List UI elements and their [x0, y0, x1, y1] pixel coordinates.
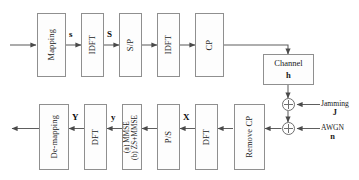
- block-channel-label: Channel: [274, 58, 302, 69]
- block-channel[interactable]: Channel h: [263, 54, 314, 85]
- block-serial-to-parallel-label: S/P: [126, 39, 135, 51]
- block-idft-2[interactable]: IDFT: [157, 13, 180, 77]
- label-jamming-symbol: J: [321, 108, 349, 117]
- block-dft-2[interactable]: DFT: [84, 104, 107, 170]
- label-awgn-symbol: n: [321, 132, 344, 141]
- block-remove-cp[interactable]: Remove CP: [234, 104, 265, 170]
- block-idft-2-label: IDFT: [164, 35, 173, 54]
- block-mapping[interactable]: Mapping: [37, 13, 66, 77]
- block-equalizer-label: (a) MMSE(b) ZS+MMSE: [124, 115, 139, 160]
- block-parallel-to-serial-label: P/S: [164, 131, 173, 143]
- block-equalizer[interactable]: (a) MMSE(b) ZS+MMSE: [122, 104, 142, 170]
- block-serial-to-parallel[interactable]: S/P: [119, 13, 142, 77]
- plus-circle-icon-jamming: [282, 98, 295, 111]
- label-awgn: AWGN n: [321, 123, 344, 141]
- label-jamming: Jamming J: [321, 99, 349, 117]
- block-de-mapping-label: De-mapping: [50, 115, 59, 159]
- signal-label-s-upper: S: [107, 29, 112, 39]
- block-mapping-label: Mapping: [47, 29, 56, 60]
- label-jamming-text: Jamming: [321, 99, 349, 108]
- wire-cp-to-channel: [224, 45, 288, 54]
- block-de-mapping[interactable]: De-mapping: [39, 104, 69, 170]
- block-channel-gain-symbol: h: [286, 70, 291, 81]
- block-parallel-to-serial[interactable]: P/S: [157, 104, 180, 170]
- signal-label-y-upper: Y: [72, 112, 79, 122]
- block-idft-1[interactable]: IDFT: [81, 13, 104, 77]
- block-dft-1[interactable]: DFT: [195, 104, 218, 170]
- block-cp-label: CP: [205, 40, 214, 51]
- block-dft-2-label: DFT: [91, 129, 100, 145]
- block-idft-1-label: IDFT: [88, 35, 97, 54]
- block-diagram-canvas: Mapping IDFT S/P IDFT CP s S Channel h J…: [0, 0, 359, 180]
- signal-label-x-upper: X: [183, 112, 190, 122]
- label-awgn-text: AWGN: [321, 123, 344, 132]
- block-remove-cp-label: Remove CP: [245, 116, 254, 158]
- signal-label-s-lower: s: [69, 29, 73, 39]
- plus-circle-icon-awgn: [282, 122, 295, 135]
- block-equalizer-label-line2: (b) ZS+MMSE: [131, 115, 139, 160]
- signal-label-y-lower: y: [111, 112, 116, 122]
- block-cp[interactable]: CP: [195, 13, 224, 77]
- block-dft-1-label: DFT: [202, 129, 211, 145]
